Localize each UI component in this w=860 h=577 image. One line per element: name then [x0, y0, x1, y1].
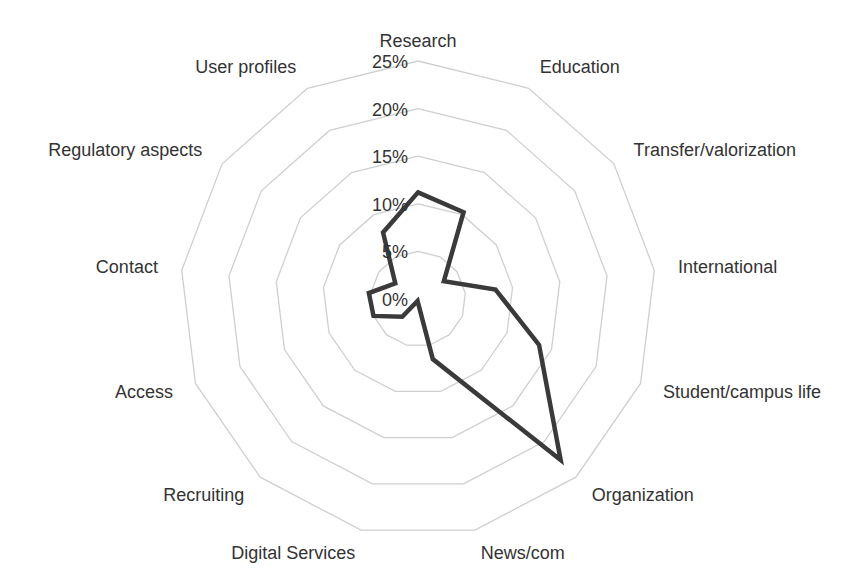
data-series	[369, 192, 561, 460]
grid-ring-3	[276, 156, 560, 437]
category-label: Education	[540, 57, 620, 77]
tick-label: 10%	[372, 195, 408, 215]
category-label: Access	[115, 382, 173, 402]
tick-label: 15%	[372, 147, 408, 167]
category-label: Contact	[96, 257, 158, 277]
series-line-0	[369, 192, 561, 460]
category-label: Student/campus life	[663, 382, 821, 402]
category-label: International	[678, 257, 777, 277]
category-label: News/com	[481, 543, 565, 563]
radial-tick-labels: 0%5%10%15%20%25%	[372, 52, 408, 310]
category-label: Research	[379, 31, 456, 51]
tick-label: 25%	[372, 52, 408, 72]
category-label: Digital Services	[231, 543, 355, 563]
grid-ring-4	[229, 109, 607, 484]
grid-rings	[182, 61, 655, 530]
category-label: User profiles	[195, 57, 296, 77]
category-label: Organization	[592, 485, 694, 505]
category-label: Transfer/valorization	[634, 140, 796, 160]
category-label: Recruiting	[163, 485, 244, 505]
radar-chart: 0%5%10%15%20%25% ResearchEducationTransf…	[0, 0, 860, 577]
grid-ring-5	[182, 61, 655, 530]
category-label: Regulatory aspects	[48, 140, 202, 160]
tick-label: 20%	[372, 100, 408, 120]
tick-label: 5%	[382, 242, 408, 262]
tick-label: 0%	[382, 290, 408, 310]
